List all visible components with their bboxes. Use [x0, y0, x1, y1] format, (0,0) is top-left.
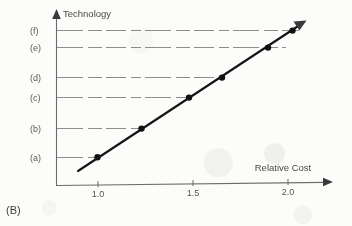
data-point-c: [186, 94, 192, 100]
x-axis-arrow-icon: [323, 178, 333, 187]
figure-caption: (B): [6, 204, 21, 216]
y-axis-arrow-icon: [52, 9, 61, 19]
x-axis-title: Relative Cost: [255, 162, 312, 173]
y-tick-label-f: (f): [30, 26, 39, 36]
data-point-d: [219, 74, 225, 80]
data-point-e: [265, 44, 271, 50]
y-tick-label-c: (c): [30, 93, 41, 103]
y-axis-title: Technology: [63, 8, 111, 19]
x-axis: [57, 178, 334, 188]
y-tick-label-b: (b): [30, 124, 41, 134]
figure-page: (f) (e) (d) (c) (b) (a) 1.0 1.5 2.0 Tech…: [0, 0, 352, 226]
x-tick-label-group: 1.0 1.5 2.0: [92, 187, 295, 199]
x-tick-label-3: 2.0: [282, 187, 295, 197]
series-technology-cost: [78, 21, 307, 172]
data-point-a: [94, 154, 100, 160]
y-tick-label-e: (e): [30, 43, 41, 53]
x-tick-label-2: 1.5: [187, 188, 200, 198]
y-tick-label-a: (a): [30, 153, 41, 163]
data-point-f: [289, 27, 295, 33]
x-tick-label-1: 1.0: [92, 189, 105, 199]
x-axis-line: [57, 182, 326, 185]
technology-vs-relative-cost-chart: (f) (e) (d) (c) (b) (a) 1.0 1.5 2.0 Tech…: [0, 0, 352, 226]
y-tick-label-d: (d): [30, 73, 41, 83]
data-point-b: [138, 125, 144, 131]
y-tick-label-group: (f) (e) (d) (c) (b) (a): [30, 26, 41, 163]
